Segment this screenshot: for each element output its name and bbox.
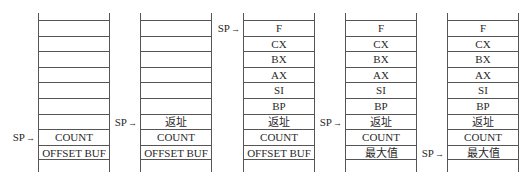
sp-text: SP	[13, 131, 25, 143]
stack-cell: BP	[244, 98, 314, 114]
stack-cell: CX	[346, 36, 416, 52]
stack-cell	[141, 98, 211, 114]
sp-text: SP	[422, 147, 434, 159]
stack-2: 返址COUNTOFFSET BUF	[140, 13, 212, 172]
stack-pointer-label: SP→	[115, 115, 137, 130]
stack-cell: OFFSET BUF	[39, 145, 109, 161]
stack-cell: 返址	[346, 114, 416, 130]
stack-cell: COUNT	[346, 129, 416, 145]
arrow-right-icon: →	[333, 118, 342, 128]
stack-cell: BX	[448, 51, 518, 67]
stack-cell	[141, 82, 211, 98]
stack-cell: BX	[346, 51, 416, 67]
stack-cell: COUNT	[141, 129, 211, 145]
stack-cell: AX	[244, 67, 314, 83]
stack-cell: SI	[244, 82, 314, 98]
stack-pointer-label: SP→	[320, 115, 342, 130]
stack-cell: F	[448, 20, 518, 36]
stack-cell: BX	[244, 51, 314, 67]
stack-1: COUNTOFFSET BUF	[38, 13, 110, 172]
arrow-right-icon: →	[26, 133, 35, 143]
stack-cell: BP	[346, 98, 416, 114]
stack-cell: COUNT	[448, 129, 518, 145]
stack-cell	[39, 51, 109, 67]
stack-cell: AX	[346, 67, 416, 83]
stack-cell	[39, 114, 109, 130]
stack-cell	[141, 20, 211, 36]
stack-cell: 最大值	[448, 145, 518, 161]
stack-cell	[39, 82, 109, 98]
stack-3: FCXBXAXSIBP返址COUNTOFFSET BUF	[243, 13, 315, 172]
stack-cell: CX	[244, 36, 314, 52]
stack-cell: SI	[346, 82, 416, 98]
stack-cell	[39, 67, 109, 83]
stack-4: FCXBXAXSIBP返址COUNT最大值	[345, 13, 417, 172]
stack-cell: BP	[448, 98, 518, 114]
stack-pointer-label: SP→	[422, 146, 444, 161]
stack-5: FCXBXAXSIBP返址COUNT最大值	[447, 13, 519, 172]
arrow-right-icon: →	[435, 149, 444, 159]
sp-text: SP	[115, 116, 127, 128]
stack-cell: 返址	[244, 114, 314, 130]
sp-text: SP	[218, 22, 230, 34]
stack-cell: CX	[448, 36, 518, 52]
stack-cell	[39, 36, 109, 52]
stack-cell: COUNT	[244, 129, 314, 145]
stack-cell	[141, 51, 211, 67]
stack-cell	[39, 20, 109, 36]
stack-cell: AX	[448, 67, 518, 83]
arrow-right-icon: →	[231, 24, 240, 34]
stack-cell: COUNT	[39, 129, 109, 145]
stack-cell	[141, 67, 211, 83]
stack-cell: 返址	[448, 114, 518, 130]
sp-text: SP	[320, 116, 332, 128]
stack-pointer-label: SP→	[13, 130, 35, 145]
stack-cell: SI	[448, 82, 518, 98]
stack-cell	[141, 36, 211, 52]
stack-cell: 最大值	[346, 145, 416, 161]
stack-pointer-label: SP→	[218, 21, 240, 36]
arrow-right-icon: →	[128, 118, 137, 128]
stack-cell: F	[244, 20, 314, 36]
stack-cell: OFFSET BUF	[141, 145, 211, 161]
stack-cell: F	[346, 20, 416, 36]
stack-cell: 返址	[141, 114, 211, 130]
stack-cell	[39, 98, 109, 114]
stack-cell: OFFSET BUF	[244, 145, 314, 161]
